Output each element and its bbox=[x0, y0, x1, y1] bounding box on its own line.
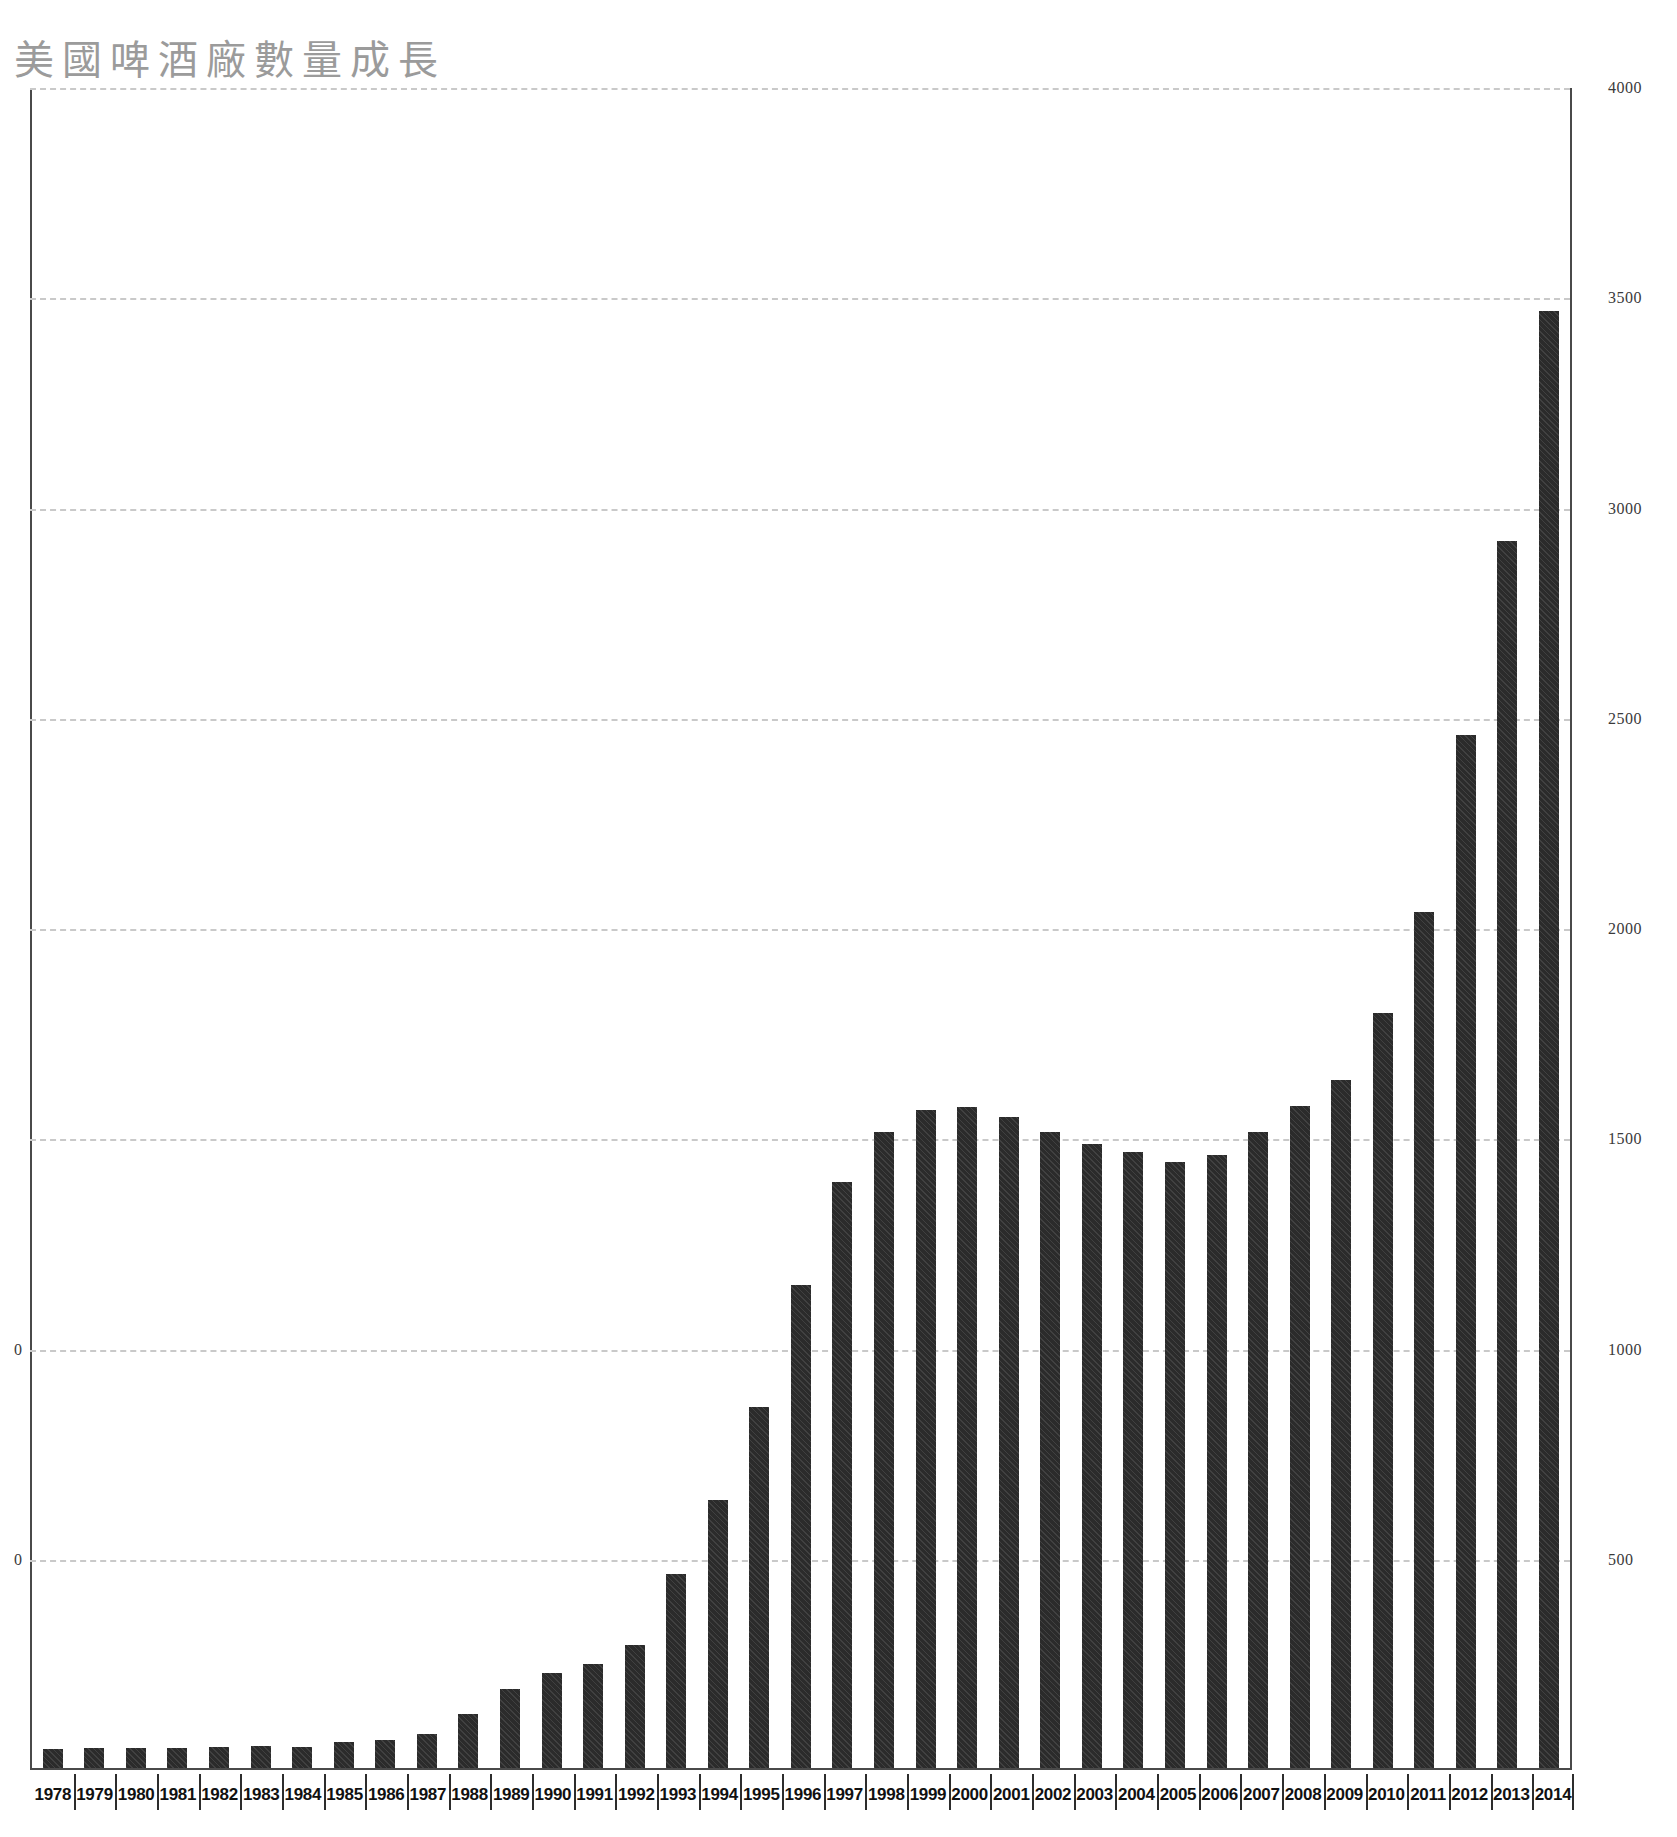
x-axis-tick-label: 1989 bbox=[490, 1772, 532, 1818]
x-axis-tick-label: 2009 bbox=[1324, 1772, 1366, 1818]
bar[interactable] bbox=[1040, 1132, 1060, 1768]
bar[interactable] bbox=[84, 1748, 104, 1768]
bar[interactable] bbox=[500, 1689, 520, 1768]
bar[interactable] bbox=[916, 1110, 936, 1768]
bar[interactable] bbox=[1497, 541, 1517, 1768]
bar-slot bbox=[822, 88, 864, 1768]
bar[interactable] bbox=[1290, 1106, 1310, 1768]
y-axis-tick-label-left: 0 bbox=[14, 1341, 22, 1359]
bar-slot bbox=[863, 88, 905, 1768]
bar[interactable] bbox=[1414, 912, 1434, 1768]
x-axis-tick-label: 1991 bbox=[574, 1772, 616, 1818]
bar-slot bbox=[1196, 88, 1238, 1768]
bar[interactable] bbox=[1331, 1080, 1351, 1768]
x-axis-tick-label: 2003 bbox=[1074, 1772, 1116, 1818]
bar-slot bbox=[946, 88, 988, 1768]
x-axis-tick-label: 1997 bbox=[824, 1772, 866, 1818]
x-axis-labels: 1978197919801981198219831984198519861987… bbox=[32, 1772, 1574, 1818]
page-title: 美國啤酒廠數量成長 bbox=[14, 28, 446, 86]
x-axis-tick-label: 1995 bbox=[740, 1772, 782, 1818]
bar-slot bbox=[157, 88, 199, 1768]
bar[interactable] bbox=[458, 1714, 478, 1768]
bar[interactable] bbox=[1539, 311, 1559, 1768]
bar[interactable] bbox=[542, 1673, 562, 1768]
bar[interactable] bbox=[334, 1742, 354, 1768]
x-axis-tick-label: 2008 bbox=[1282, 1772, 1324, 1818]
bar[interactable] bbox=[999, 1117, 1019, 1768]
bar-slot bbox=[406, 88, 448, 1768]
x-axis-tick-label: 2014 bbox=[1532, 1772, 1574, 1818]
bar[interactable] bbox=[417, 1734, 437, 1768]
bar-slot bbox=[1071, 88, 1113, 1768]
bar[interactable] bbox=[126, 1748, 146, 1768]
chart-plot-area: 400035003000250020001500100050000 bbox=[30, 88, 1572, 1770]
x-axis-tick-label: 1983 bbox=[240, 1772, 282, 1818]
bar-slot bbox=[1528, 88, 1570, 1768]
bar-slot bbox=[572, 88, 614, 1768]
y-axis-tick-label: 4000 bbox=[1608, 79, 1642, 97]
bar[interactable] bbox=[292, 1747, 312, 1768]
bar-slot bbox=[905, 88, 947, 1768]
bar-slot bbox=[1320, 88, 1362, 1768]
x-axis-tick-label: 1978 bbox=[32, 1772, 74, 1818]
bar[interactable] bbox=[625, 1645, 645, 1768]
x-axis-tick-label: 1990 bbox=[532, 1772, 574, 1818]
bar[interactable] bbox=[1373, 1013, 1393, 1768]
bar[interactable] bbox=[375, 1740, 395, 1768]
bar[interactable] bbox=[791, 1285, 811, 1768]
y-axis-tick-label: 2000 bbox=[1608, 920, 1642, 938]
bar-slot bbox=[115, 88, 157, 1768]
bar[interactable] bbox=[1123, 1152, 1143, 1768]
bar-slot bbox=[1404, 88, 1446, 1768]
y-axis-tick-label: 3000 bbox=[1608, 500, 1642, 518]
bar-slot bbox=[614, 88, 656, 1768]
y-axis-tick-label: 2500 bbox=[1608, 710, 1642, 728]
x-axis-tick-label: 1987 bbox=[407, 1772, 449, 1818]
bar-slot bbox=[1113, 88, 1155, 1768]
x-axis-tick-label: 2007 bbox=[1240, 1772, 1282, 1818]
bar-slot bbox=[531, 88, 573, 1768]
bar[interactable] bbox=[251, 1746, 271, 1768]
bar[interactable] bbox=[874, 1132, 894, 1768]
x-axis-tick-label: 1985 bbox=[324, 1772, 366, 1818]
bar[interactable] bbox=[957, 1107, 977, 1768]
bar[interactable] bbox=[832, 1182, 852, 1768]
bar[interactable] bbox=[583, 1664, 603, 1768]
bar[interactable] bbox=[43, 1749, 63, 1768]
bar[interactable] bbox=[209, 1747, 229, 1768]
bar[interactable] bbox=[1082, 1144, 1102, 1768]
bar-slot bbox=[1237, 88, 1279, 1768]
bar[interactable] bbox=[167, 1748, 187, 1768]
bar[interactable] bbox=[1165, 1162, 1185, 1768]
bar[interactable] bbox=[1207, 1155, 1227, 1768]
bar-slot bbox=[448, 88, 490, 1768]
bar[interactable] bbox=[749, 1407, 769, 1768]
bar-slot bbox=[281, 88, 323, 1768]
bar-slot bbox=[1362, 88, 1404, 1768]
x-axis-tick-label: 1979 bbox=[74, 1772, 116, 1818]
x-axis-tick-label: 1996 bbox=[782, 1772, 824, 1818]
x-axis-tick-label: 2002 bbox=[1032, 1772, 1074, 1818]
x-axis-tick-label: 1980 bbox=[115, 1772, 157, 1818]
x-axis-tick-label: 1988 bbox=[449, 1772, 491, 1818]
bar[interactable] bbox=[708, 1500, 728, 1768]
x-axis-tick-label: 2006 bbox=[1199, 1772, 1241, 1818]
bar[interactable] bbox=[666, 1574, 686, 1768]
bar-slot bbox=[1154, 88, 1196, 1768]
x-axis-tick-label: 1984 bbox=[282, 1772, 324, 1818]
bar-slot bbox=[780, 88, 822, 1768]
bar-slot bbox=[1487, 88, 1529, 1768]
bar[interactable] bbox=[1248, 1132, 1268, 1768]
x-axis-tick-label: 2004 bbox=[1115, 1772, 1157, 1818]
y-axis-tick-label: 1500 bbox=[1608, 1130, 1642, 1148]
x-axis-tick-label: 1998 bbox=[865, 1772, 907, 1818]
x-axis-tick-label: 1981 bbox=[157, 1772, 199, 1818]
y-axis-tick-label: 500 bbox=[1608, 1551, 1634, 1569]
x-axis-tick-label: 1986 bbox=[365, 1772, 407, 1818]
bar-slot bbox=[1279, 88, 1321, 1768]
x-axis-tick-label: 1993 bbox=[657, 1772, 699, 1818]
y-axis-tick-label: 3500 bbox=[1608, 289, 1642, 307]
bar-slot bbox=[323, 88, 365, 1768]
x-axis-tick-label: 2005 bbox=[1157, 1772, 1199, 1818]
bar[interactable] bbox=[1456, 735, 1476, 1768]
